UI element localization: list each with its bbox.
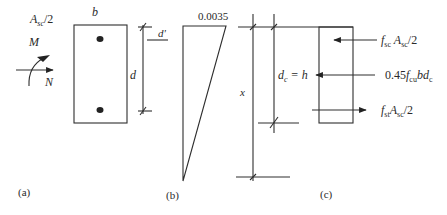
strain-triangle: [183, 26, 226, 181]
bottom-rebar-icon: [97, 107, 104, 113]
label-asc-half: Asc/2: [29, 12, 53, 28]
panel-c-stress-block: x dc = h fsc Asc/2 0.45fcubdc fstAsc/2 (…: [236, 14, 433, 201]
moment-arrow-icon: [29, 58, 44, 86]
label-force-fst: fstAsc/2: [381, 103, 413, 119]
label-dprime: d': [158, 27, 167, 39]
label-strain-value: 0.0035: [198, 10, 229, 22]
label-neutral-axis-x: x: [239, 86, 245, 98]
stress-strain-diagram: Asc/2 b d' d M N (a) 0.0035 (b): [0, 0, 447, 215]
label-force-fsc: fsc Asc/2: [381, 33, 417, 49]
label-moment-m: M: [28, 35, 40, 49]
caption-b: (b): [166, 189, 179, 202]
label-axial-n: N: [44, 75, 54, 89]
panel-a-cross-section: Asc/2 b d' d M N (a): [16, 5, 168, 199]
label-dc-equals-h: dc = h: [278, 68, 308, 84]
panel-b-strain-diagram: 0.0035 (b): [166, 10, 229, 202]
label-width-b: b: [92, 5, 98, 19]
label-force-concrete: 0.45fcubdc: [385, 68, 433, 84]
caption-c: (c): [320, 188, 333, 201]
caption-a: (a): [18, 186, 31, 199]
label-depth-d: d: [130, 68, 137, 82]
top-rebar-icon: [97, 36, 104, 42]
